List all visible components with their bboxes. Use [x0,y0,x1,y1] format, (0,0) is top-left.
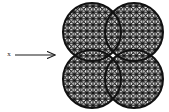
figure-canvas: x [0,0,169,112]
axis-label-x: x [7,50,11,58]
figure-svg: x [0,0,169,112]
